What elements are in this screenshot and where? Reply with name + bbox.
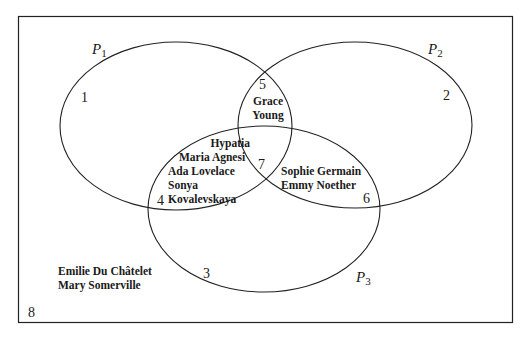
name-item: Emmy Noether (281, 178, 361, 192)
name-item: Sonya (168, 178, 252, 192)
name-item: Maria Agnesi (168, 150, 252, 164)
region-5-number: 5 (259, 78, 266, 92)
region-7-number: 7 (258, 158, 265, 172)
name-item: Grace (242, 94, 294, 108)
region-4-names: Hypatia Maria Agnesi Ada Lovelace Sonya … (168, 136, 252, 206)
region-8-number: 8 (28, 306, 35, 320)
set-label-p2: P2 (428, 42, 443, 60)
region-6-number: 6 (363, 192, 370, 206)
region-2-number: 2 (443, 89, 450, 103)
set-label-p3: P3 (356, 270, 371, 288)
region-8-names: Emilie Du Châtelet Mary Somerville (58, 264, 152, 292)
name-item: Hypatia (168, 136, 252, 150)
name-item: Emilie Du Châtelet (58, 264, 152, 278)
name-item: Kovalevskaya (168, 192, 252, 206)
name-item: Young (242, 108, 294, 122)
name-item: Ada Lovelace (168, 164, 252, 178)
region-4-number: 4 (157, 194, 164, 208)
region-1-number: 1 (81, 91, 88, 105)
name-item: Mary Somerville (58, 278, 152, 292)
region-3-number: 3 (203, 267, 210, 281)
region-6-names: Sophie Germain Emmy Noether (281, 164, 361, 192)
name-item: Sophie Germain (281, 164, 361, 178)
region-5-names: Grace Young (242, 94, 294, 122)
set-label-p1: P1 (92, 42, 107, 60)
